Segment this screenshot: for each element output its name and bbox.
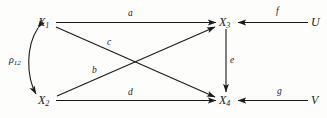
edge-rho12-curve: [29, 28, 38, 94]
node-x2: X2: [38, 94, 49, 108]
edge-label-b: b: [92, 66, 97, 76]
edge-label-f: f: [276, 7, 279, 17]
edge-label-a: a: [128, 9, 133, 19]
node-u: U: [311, 16, 320, 28]
node-x1: X1: [38, 16, 49, 30]
edge-label-rho12: ρ12: [9, 55, 21, 67]
node-x3: X3: [219, 16, 230, 30]
edge-label-d: d: [128, 88, 133, 98]
node-v: V: [311, 94, 318, 106]
edge-label-c: c: [107, 38, 111, 48]
node-x4: X4: [219, 94, 230, 108]
edge-label-e: e: [230, 56, 234, 66]
edge-label-g: g: [277, 87, 282, 97]
path-diagram: X1 X2 X3 X4 U V a c b d e f g ρ12: [0, 0, 327, 118]
